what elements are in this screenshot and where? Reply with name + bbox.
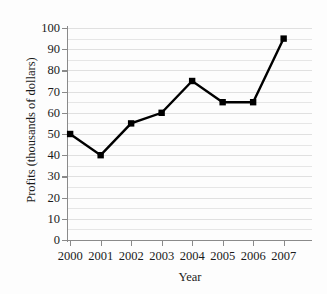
- x-axis-title: Year: [68, 270, 312, 285]
- y-axis-tick-label: 50: [14, 128, 60, 141]
- y-axis-tick-label: 100: [14, 22, 60, 35]
- x-axis-tick-label: 2007: [264, 250, 304, 263]
- y-axis-tick-label: 40: [14, 149, 60, 162]
- gridline: [68, 208, 312, 209]
- x-axis-tick-mark: [131, 240, 132, 246]
- x-axis-tick-mark: [162, 240, 163, 246]
- y-axis-tick-mark: [62, 176, 68, 177]
- gridline: [68, 28, 312, 29]
- x-axis-tick-mark: [101, 240, 102, 246]
- line-chart: Profits (thousands of dollars) 010203040…: [0, 0, 327, 294]
- y-axis-tick-mark: [62, 198, 68, 199]
- y-axis-tick-mark: [62, 49, 68, 50]
- gridline: [68, 229, 312, 230]
- y-axis-tick-mark: [62, 113, 68, 114]
- plot-area: [68, 28, 312, 240]
- gridline: [68, 60, 312, 61]
- x-axis-tick-mark: [253, 240, 254, 246]
- gridline: [68, 219, 312, 220]
- y-axis-tick-mark: [62, 70, 68, 71]
- y-axis-tick-label: 60: [14, 107, 60, 120]
- gridline: [68, 39, 312, 40]
- gridline: [68, 145, 312, 146]
- x-axis-tick-mark: [192, 240, 193, 246]
- gridline: [68, 123, 312, 124]
- y-axis-tick-label: 0: [14, 234, 60, 247]
- y-axis-tick-mark: [62, 219, 68, 220]
- y-axis-tick-mark: [62, 240, 68, 241]
- x-axis-tick-mark: [70, 240, 71, 246]
- gridline: [68, 81, 312, 82]
- gridline: [68, 113, 312, 114]
- y-axis-tick-mark: [62, 28, 68, 29]
- gridline: [68, 92, 312, 93]
- gridline: [68, 187, 312, 188]
- y-axis-tick-mark: [62, 92, 68, 93]
- gridline: [68, 70, 312, 71]
- gridline: [68, 198, 312, 199]
- x-axis-tick-mark: [284, 240, 285, 246]
- y-axis-tick-mark: [62, 134, 68, 135]
- y-axis-tick-label: 20: [14, 192, 60, 205]
- gridline: [68, 134, 312, 135]
- y-axis-tick-label: 30: [14, 170, 60, 183]
- gridline: [68, 155, 312, 156]
- y-axis-tick-label: 10: [14, 213, 60, 226]
- gridline: [68, 49, 312, 50]
- gridline: [68, 102, 312, 103]
- gridline: [68, 176, 312, 177]
- y-axis-tick-label: 70: [14, 86, 60, 99]
- y-axis-tick-label: 90: [14, 43, 60, 56]
- y-axis-tick-label: 80: [14, 64, 60, 77]
- y-axis-tick-mark: [62, 155, 68, 156]
- gridline: [68, 166, 312, 167]
- x-axis-line: [67, 240, 312, 241]
- x-axis-tick-mark: [223, 240, 224, 246]
